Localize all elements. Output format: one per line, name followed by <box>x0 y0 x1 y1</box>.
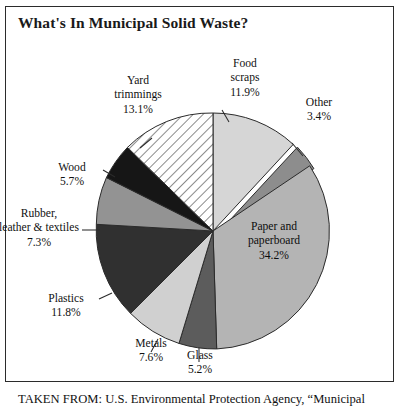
pie-label-yard-line2: trimmings <box>96 88 180 102</box>
pie-label-yard-trimmings: Yard trimmings 13.1% <box>96 74 180 117</box>
pie-label-wood-line1: Wood <box>44 161 100 175</box>
pie-label-yard-line1: Yard <box>96 74 180 88</box>
pie-label-wood-value: 5.7% <box>44 175 100 189</box>
pie-label-other: Other 3.4% <box>288 96 350 125</box>
pie-label-metals-value: 7.6% <box>119 351 183 365</box>
pie-label-food-scraps-value: 11.9% <box>208 86 282 100</box>
callout-line-plastics <box>99 293 112 299</box>
pie-label-paper-line1: Paper and <box>219 220 329 234</box>
pie-label-metals: Metals 7.6% <box>119 337 183 366</box>
pie-label-plastics: Plastics 11.8% <box>34 292 98 321</box>
pie-chart-svg <box>0 0 403 384</box>
pie-label-food-scraps-line2: scraps <box>208 71 282 85</box>
pie-label-food-scraps-line1: Food <box>208 57 282 71</box>
figure-caption: TAKEN FROM: U.S. Environmental Protectio… <box>18 391 390 408</box>
pie-label-other-value: 3.4% <box>288 110 350 124</box>
pie-label-paper-value: 34.2% <box>219 249 329 263</box>
figure-container: What's In Municipal Solid Waste? <box>0 0 403 420</box>
pie-label-plastics-line1: Plastics <box>34 292 98 306</box>
pie-label-rubber-line1: Rubber, <box>0 207 80 221</box>
pie-label-rubber-value: 7.3% <box>0 236 80 250</box>
pie-label-rubber-leather-textiles: Rubber, leather & textiles 7.3% <box>0 207 80 250</box>
pie-label-wood: Wood 5.7% <box>44 161 100 190</box>
pie-label-metals-line1: Metals <box>119 337 183 351</box>
pie-label-food-scraps: Food scraps 11.9% <box>208 57 282 100</box>
pie-chart: Food scraps 11.9% Other 3.4% Paper and p… <box>0 0 403 384</box>
pie-label-paper-and-paperboard: Paper and paperboard 34.2% <box>219 220 329 263</box>
pie-label-yard-value: 13.1% <box>96 103 180 117</box>
pie-label-rubber-line2: leather & textiles <box>0 221 96 235</box>
pie-label-other-line1: Other <box>288 96 350 110</box>
pie-label-plastics-value: 11.8% <box>34 306 98 320</box>
pie-label-paper-line2: paperboard <box>219 234 329 248</box>
